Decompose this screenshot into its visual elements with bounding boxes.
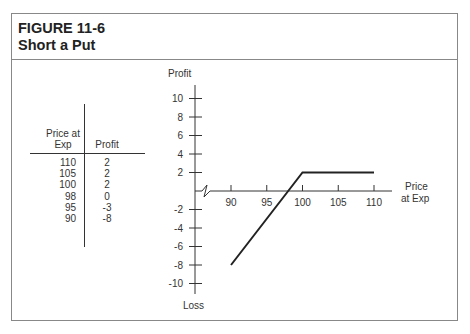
x-tick-label: 95 bbox=[261, 197, 273, 208]
y-label-profit: Profit bbox=[168, 68, 192, 79]
y-tick-label: 10 bbox=[172, 93, 184, 104]
y-tick-label: 8 bbox=[177, 112, 183, 123]
y-tick-label: -10 bbox=[169, 278, 184, 289]
y-tick-label: 4 bbox=[177, 149, 183, 160]
y-tick-label: -6 bbox=[174, 241, 183, 252]
y-label-loss: Loss bbox=[183, 300, 204, 311]
x-label-line2: at Exp bbox=[401, 193, 430, 204]
y-tick-label: -4 bbox=[174, 223, 183, 234]
y-tick-label: -8 bbox=[174, 260, 183, 271]
y-tick-label: 6 bbox=[177, 130, 183, 141]
x-axis-with-break bbox=[195, 185, 392, 197]
x-tick-label: 90 bbox=[225, 197, 237, 208]
x-tick-label: 105 bbox=[330, 197, 347, 208]
x-label-line1: Price bbox=[405, 181, 428, 192]
x-tick-label: 100 bbox=[294, 197, 311, 208]
y-tick-label: 2 bbox=[177, 167, 183, 178]
x-tick-label: 110 bbox=[366, 197, 382, 208]
payoff-chart: 108642-2-4-6-8-109095100105110 Profit Lo… bbox=[0, 0, 470, 334]
y-tick-label: -2 bbox=[174, 204, 183, 215]
